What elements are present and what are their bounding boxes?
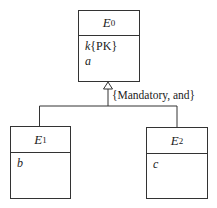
entity-e0[interactable]: E0 k{PK} a [78,10,140,82]
attribute-b: b [17,156,64,171]
entity-e2[interactable]: E2 c [146,127,208,199]
entity-e2-attributes: c [147,154,207,175]
entity-e0-attributes: k{PK} a [79,36,139,72]
entity-e2-name: E2 [147,128,207,154]
attribute-k: k{PK} [85,39,133,54]
entity-e0-name: E0 [79,11,139,36]
entity-e1[interactable]: E1 b [10,126,71,199]
generalization-triangle-icon [104,82,113,89]
constraint-label: {Mandatory, and} [112,89,195,101]
attribute-c: c [153,157,201,172]
entity-e1-attributes: b [11,153,70,174]
attribute-a: a [85,54,133,69]
entity-e1-name: E1 [11,127,70,153]
